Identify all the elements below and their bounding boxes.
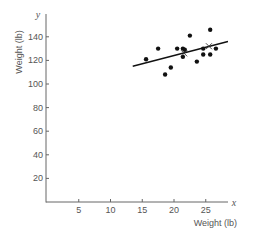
y-tick-label: 40 (33, 150, 43, 160)
y-tick-label: 140 (28, 32, 43, 42)
data-point (156, 46, 160, 50)
x-tick-label: 25 (201, 205, 211, 215)
y-tick-label: 100 (28, 79, 43, 89)
y-axis-variable: y (35, 9, 41, 20)
regression-line-segment (133, 42, 228, 67)
x-axis-title: Weight (lb) (194, 218, 237, 228)
y-tick-label: 20 (33, 173, 43, 183)
x-tick-label: 5 (76, 205, 81, 215)
data-point (163, 72, 167, 76)
x-tick-label: 20 (169, 205, 179, 215)
regression-line (133, 42, 228, 67)
data-point (175, 46, 179, 50)
axes (46, 14, 228, 203)
y-tick-label: 60 (33, 126, 43, 136)
data-points (144, 28, 218, 77)
data-point (188, 33, 192, 37)
data-point (201, 46, 205, 50)
data-point (169, 65, 173, 69)
data-point (144, 57, 148, 61)
x-axis-variable: x (231, 197, 237, 208)
y-tick-label: 80 (33, 103, 43, 113)
scatter-chart: 51015202520406080100120140 Weight (lb) y… (0, 0, 254, 239)
y-tick-label: 120 (28, 55, 43, 65)
x-tick-label: 15 (137, 205, 147, 215)
data-point (214, 46, 218, 50)
y-axis-title: Weight (lb) (14, 30, 24, 73)
data-point (208, 28, 212, 32)
data-point (181, 55, 185, 59)
data-point (201, 52, 205, 56)
data-point (195, 59, 199, 63)
ticks: 51015202520406080100120140 (28, 32, 211, 215)
data-point (208, 52, 212, 56)
x-tick-label: 10 (105, 205, 115, 215)
